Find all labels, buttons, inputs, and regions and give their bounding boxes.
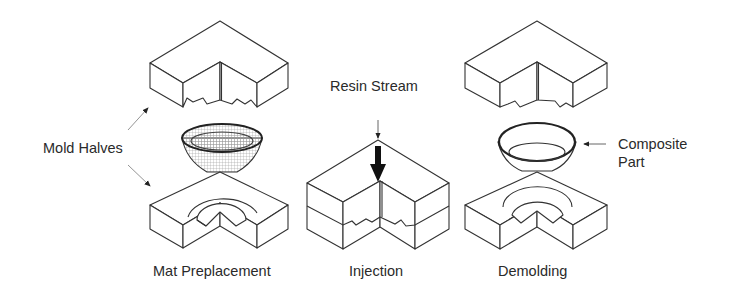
- lower-mold-half-open: [465, 172, 607, 249]
- stage-mat-preplacement: [128, 21, 288, 248]
- upper-mold-half: [150, 21, 288, 107]
- caption-mat-preplacement: Mat Preplacement: [153, 263, 271, 280]
- upper-mold-half-open: [465, 21, 607, 107]
- composite-part: [498, 123, 576, 171]
- caption-injection: Injection: [349, 263, 403, 280]
- label-resin-stream: Resin Stream: [330, 78, 418, 95]
- arrow-to-upper-mold: [128, 108, 148, 130]
- lower-mold-half: [150, 172, 288, 248]
- caption-demolding: Demolding: [498, 263, 567, 280]
- fiber-mat-preform: [182, 124, 262, 172]
- label-mold-halves: Mold Halves: [43, 140, 123, 157]
- label-composite-part-line2: Part: [618, 154, 645, 171]
- stage-demolding: [465, 21, 607, 249]
- stage-injection: [307, 120, 449, 249]
- label-composite-part-line1: Composite: [618, 136, 687, 153]
- arrow-to-lower-mold: [128, 165, 150, 186]
